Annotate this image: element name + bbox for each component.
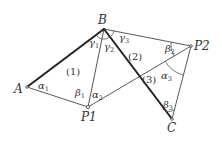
- arc-gamma3: [110, 31, 114, 37]
- label-B: B: [97, 13, 107, 27]
- point-C: [171, 118, 174, 121]
- point-P1: [86, 105, 89, 108]
- region-3-label: (3): [142, 74, 156, 85]
- angle-gamma2: γ2: [104, 41, 114, 54]
- region-2-label: (2): [128, 51, 142, 62]
- triangulation-diagram: B A P1 P2 C (1) (2) (3) α1 α2 α3 β1 β2 β…: [0, 0, 222, 142]
- angle-alpha3: α3: [161, 70, 172, 83]
- angle-beta3: β3: [162, 99, 173, 112]
- point-P2: [190, 45, 193, 48]
- angle-alpha2: α2: [92, 89, 103, 102]
- angle-beta2: β2: [164, 43, 175, 56]
- angle-beta1: β1: [74, 87, 85, 100]
- line-P2-C: [172, 46, 191, 119]
- label-P1: P1: [80, 110, 97, 124]
- label-A: A: [13, 82, 23, 96]
- line-B-P2: [104, 29, 191, 46]
- label-P2: P2: [193, 39, 210, 53]
- arc-gamma1: [96, 35, 102, 39]
- region-1-label: (1): [66, 66, 80, 77]
- arc-gamma2: [102, 37, 110, 39]
- label-C: C: [167, 121, 176, 135]
- point-A: [26, 86, 29, 89]
- angle-gamma1: γ1: [89, 37, 99, 50]
